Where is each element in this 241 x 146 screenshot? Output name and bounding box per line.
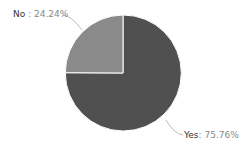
data-label-no: No : 24.24% (13, 9, 68, 19)
data-label-yes: Yes: 75.76% (184, 130, 239, 140)
pie-chart (0, 0, 241, 146)
slice-no[interactable] (65, 15, 123, 73)
leader-line-yes (166, 120, 183, 135)
